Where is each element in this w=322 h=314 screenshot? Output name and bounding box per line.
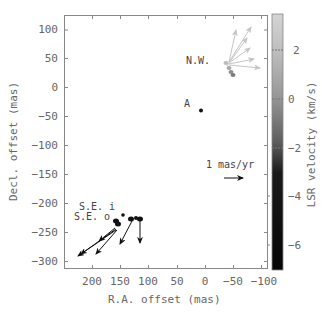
point-a [199,109,203,113]
colorbar-tick-label: 2 [293,44,300,57]
plot-area [65,16,268,269]
label-se-o: S.E. o [74,211,110,222]
y-tick-label: −50 [18,110,58,123]
y-tick-label: −250 [18,226,58,239]
colorbar-tick-label: 0 [288,93,295,106]
y-tick-label: 0 [18,81,58,94]
y-tick-label: −150 [18,168,58,181]
colorbar-tick-label: −2 [288,142,301,155]
y-tick-label: −100 [18,139,58,152]
y-tick-label: 100 [18,23,58,36]
label-nw: N.W. [186,55,210,66]
colorbar [272,14,283,270]
colorbar-tick-label: −6 [288,239,301,252]
colorbar-title: LSR velocity (km/s) [305,80,318,210]
y-tick-label: −200 [18,197,58,210]
y-tick-label: 50 [18,52,58,65]
y-tick-label: −300 [18,255,58,268]
y-axis-title: Decl. offset (mas) [7,77,20,207]
x-axis-title: R.A. offset (mas) [108,293,221,306]
label-scale: 1 mas/yr [206,159,254,170]
x-tick-label: −100 [246,275,282,288]
label-a: A [184,98,190,109]
colorbar-tick-label: −4 [288,190,301,203]
